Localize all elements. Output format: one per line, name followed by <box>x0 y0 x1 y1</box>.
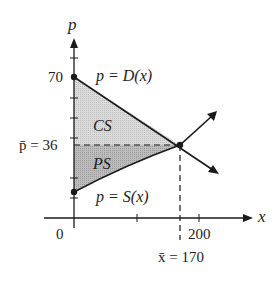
supply-intercept-point <box>71 189 77 195</box>
producer-surplus-label: PS <box>93 156 111 172</box>
demand-arrow-icon <box>208 165 219 174</box>
producer-surplus-region <box>74 145 180 192</box>
x-tick-label-200: 200 <box>188 227 211 242</box>
equilibrium-quantity-label: x̄ = 170 <box>158 250 204 265</box>
consumer-surplus-label: CS <box>93 118 112 134</box>
equilibrium-point <box>177 142 183 148</box>
equilibrium-price-label: p̄ = 36 <box>19 138 57 153</box>
y-axis-arrow-icon <box>70 38 78 48</box>
demand-curve-label: p = D(x) <box>96 68 152 84</box>
y-axis-label: p <box>68 16 77 33</box>
y-tick-label-70: 70 <box>48 70 63 85</box>
demand-intercept-point <box>71 74 77 80</box>
origin-label: 0 <box>56 227 64 242</box>
x-axis-arrow-icon <box>243 214 253 222</box>
x-axis-label: x <box>258 208 266 225</box>
supply-curve-label: p = S(x) <box>96 189 149 205</box>
